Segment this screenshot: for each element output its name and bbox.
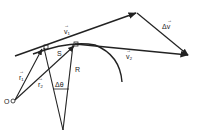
- label-v1: v₁: [64, 28, 71, 35]
- circular-path: [33, 44, 122, 82]
- label-r1-arrow: →: [19, 68, 24, 74]
- label-delta-v-arrow: →: [167, 17, 172, 23]
- origin-point: [11, 99, 15, 103]
- radius-2: [63, 45, 73, 130]
- velocity-diagram: v₁ → v₂ → Δv → r₁ → r₂ → S R Δθ O: [0, 0, 199, 137]
- label-v2-arrow: →: [126, 47, 131, 53]
- label-origin: O: [4, 98, 10, 105]
- label-delta-theta: Δθ: [55, 81, 64, 88]
- label-R: R: [75, 66, 80, 73]
- label-r2: r₂: [38, 81, 43, 88]
- label-delta-v: Δv: [162, 23, 171, 30]
- delta-v-vector: [137, 13, 188, 55]
- label-s: S: [57, 50, 62, 57]
- label-r1: r₁: [19, 74, 24, 81]
- label-r2-arrow: →: [38, 75, 43, 81]
- label-v2: v₂: [126, 53, 133, 60]
- label-v1-arrow: →: [64, 22, 69, 28]
- v1-vector: [15, 13, 136, 56]
